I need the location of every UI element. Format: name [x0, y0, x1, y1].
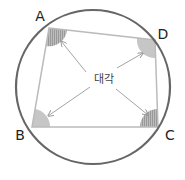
arrow-to-B: [48, 87, 90, 116]
vertex-label-C: C: [165, 127, 175, 143]
arrow-to-D: [117, 53, 143, 68]
arrow-to-A: [61, 41, 86, 72]
vertex-label-D: D: [158, 26, 169, 42]
center-label: 대각: [94, 73, 114, 86]
angle-marker-C: [140, 109, 158, 127]
vertex-label-B: B: [15, 127, 25, 143]
vertex-label-A: A: [35, 8, 45, 24]
arrow-to-C: [116, 89, 148, 115]
cyclic-quadrilateral-diagram: 대각 A D C B: [0, 0, 185, 180]
